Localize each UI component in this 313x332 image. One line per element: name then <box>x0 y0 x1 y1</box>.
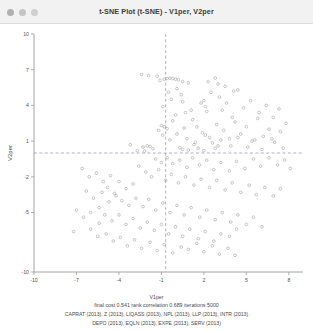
svg-text:-10: -10 <box>30 277 38 283</box>
tsne-plot-window: t-SNE Plot (t-SNE) - V1per, V2per 10741-… <box>0 0 313 332</box>
scatter-plot: 10741-2-5-10-10-7-4-1258 V2per <box>0 24 313 292</box>
svg-text:-10: -10 <box>22 269 30 275</box>
x-axis-label: V1per <box>0 294 313 300</box>
svg-text:-4: -4 <box>117 277 122 283</box>
data-points <box>72 73 291 257</box>
y-axis-label: V2per <box>7 145 13 161</box>
svg-text:7: 7 <box>26 67 29 73</box>
svg-text:8: 8 <box>287 277 290 283</box>
chart-stats: final cost 0.541 rank correlation 0.689 … <box>0 302 313 308</box>
minimize-button[interactable] <box>19 9 26 16</box>
svg-text:-2: -2 <box>24 174 29 180</box>
svg-text:1: 1 <box>26 138 29 144</box>
svg-text:2: 2 <box>202 277 205 283</box>
axis-tick-labels: 10741-2-5-10-10-7-4-1258 <box>22 31 291 283</box>
svg-text:-7: -7 <box>74 277 79 283</box>
window-titlebar: t-SNE Plot (t-SNE) - V1per, V2per <box>0 0 313 24</box>
close-button[interactable] <box>7 9 14 16</box>
svg-text:4: 4 <box>26 102 29 108</box>
svg-text:-1: -1 <box>159 277 164 283</box>
window-title: t-SNE Plot (t-SNE) - V1per, V2per <box>0 7 313 16</box>
reference-lines <box>34 34 303 272</box>
axis-ticks <box>31 34 289 275</box>
zoom-button[interactable] <box>31 9 38 16</box>
svg-text:10: 10 <box>23 31 29 37</box>
variables-line-1: CAPRAT (2013), Z (2013), LIQASS (2013), … <box>0 311 313 317</box>
chart-container: 10741-2-5-10-10-7-4-1258 V2per <box>0 24 313 332</box>
window-controls <box>7 9 38 16</box>
svg-text:-5: -5 <box>24 209 29 215</box>
variables-line-2: DEPO (2013), EQLN (2013), EXPE (2013), S… <box>0 320 313 326</box>
svg-text:5: 5 <box>245 277 248 283</box>
